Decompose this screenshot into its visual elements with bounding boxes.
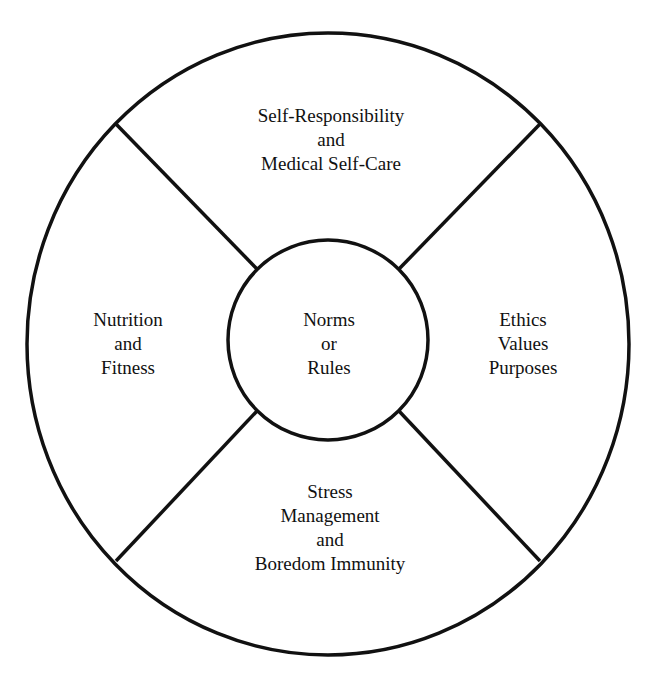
segment-right-label: Ethics Values Purposes [489, 308, 558, 380]
segment-right-line-1: Ethics [489, 308, 558, 332]
segment-left-label: Nutrition and Fitness [93, 308, 163, 380]
center-line-2: or [303, 332, 355, 356]
spoke-top-left [116, 124, 257, 269]
segment-top-line-2: and [258, 128, 405, 152]
center-line-3: Rules [303, 356, 355, 380]
segment-right-line-2: Values [489, 332, 558, 356]
spoke-top-right [399, 124, 540, 269]
spoke-bottom-left [116, 411, 257, 561]
segment-left-line-3: Fitness [93, 356, 163, 380]
segment-right-line-3: Purposes [489, 356, 558, 380]
segment-bottom-line-4: Boredom Immunity [255, 552, 405, 576]
segment-top-label: Self-Responsibility and Medical Self-Car… [258, 104, 405, 176]
segment-bottom-label: Stress Management and Boredom Immunity [255, 480, 405, 576]
center-label: Norms or Rules [303, 308, 355, 380]
segment-top-line-1: Self-Responsibility [258, 104, 405, 128]
segment-top-line-3: Medical Self-Care [258, 152, 405, 176]
segment-left-line-2: and [93, 332, 163, 356]
spoke-bottom-right [399, 411, 540, 561]
center-line-1: Norms [303, 308, 355, 332]
segment-bottom-line-1: Stress [255, 480, 405, 504]
segment-left-line-1: Nutrition [93, 308, 163, 332]
segment-bottom-line-3: and [255, 528, 405, 552]
segment-bottom-line-2: Management [255, 504, 405, 528]
